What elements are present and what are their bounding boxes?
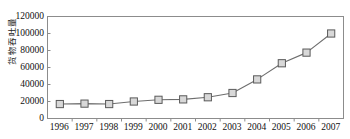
y-axis-tick-label: 20000 <box>14 97 44 107</box>
data-point-marker <box>81 100 88 107</box>
x-axis-tick-label: 2007 <box>314 122 348 133</box>
data-point-marker <box>303 49 310 56</box>
data-point-marker <box>254 76 261 83</box>
y-axis-tick-label: 0 <box>14 114 44 124</box>
data-point-marker <box>328 30 335 37</box>
data-point-marker <box>180 96 187 103</box>
data-point-marker <box>130 98 137 105</box>
y-axis-tick-labels: 020000400006000080000100000120000 <box>14 0 44 139</box>
data-point-marker <box>56 100 63 107</box>
y-axis-tick-label: 60000 <box>14 63 44 73</box>
y-axis-tick-label: 80000 <box>14 46 44 56</box>
x-axis-tick-labels: 1996199719981999200020012002200320042005… <box>47 122 345 136</box>
y-axis-tick-label: 40000 <box>14 80 44 90</box>
plot-frame <box>48 17 344 119</box>
series-line <box>60 34 331 105</box>
y-axis-tick-label: 120000 <box>14 12 44 22</box>
data-point-marker <box>229 89 236 96</box>
data-point-marker <box>106 100 113 107</box>
chart-container: 货物吞吐量 020000400006000080000100000120000 … <box>0 0 350 139</box>
data-point-marker <box>204 94 211 101</box>
y-axis-tick-label: 100000 <box>14 29 44 39</box>
data-point-marker <box>278 60 285 67</box>
data-point-marker <box>155 96 162 103</box>
plot-area <box>0 0 350 139</box>
